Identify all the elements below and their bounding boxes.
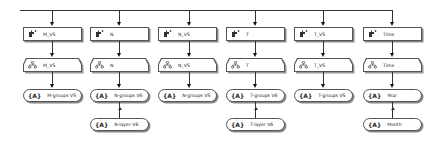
level-icon: {A} bbox=[368, 121, 381, 129]
dimension-node[interactable]: Time bbox=[363, 27, 422, 41]
dimension-label: T_VS bbox=[314, 32, 325, 37]
connector-line bbox=[255, 102, 256, 118]
arrow-down-icon bbox=[253, 22, 257, 26]
hierarchy-node[interactable]: Time bbox=[363, 58, 422, 72]
hierarchy-node[interactable]: M_VS bbox=[23, 58, 82, 72]
level-node[interactable]: {A} N-layer V6 bbox=[90, 118, 149, 131]
dimension-node[interactable]: T bbox=[226, 27, 285, 41]
level-label: Year bbox=[387, 93, 397, 98]
level-label: T-groups VS bbox=[318, 93, 345, 98]
hierarchy-label: T_VS bbox=[314, 63, 325, 68]
level-icon: {A} bbox=[163, 92, 176, 100]
dimension-node[interactable]: N_VS bbox=[158, 27, 217, 41]
level-icon: {A} bbox=[95, 92, 108, 100]
arrow-down-icon bbox=[187, 53, 191, 57]
arrow-down-icon bbox=[390, 22, 394, 26]
arrow-down-icon bbox=[187, 22, 191, 26]
hierarchy-label: M_VS bbox=[43, 63, 55, 68]
connector-line bbox=[392, 102, 393, 118]
level-label: T-groups V6 bbox=[250, 93, 277, 98]
dimension-icon bbox=[367, 30, 377, 38]
arrow-down-icon bbox=[390, 53, 394, 57]
hierarchy-icon bbox=[162, 61, 172, 69]
dimension-label: M_VS bbox=[43, 32, 55, 37]
arrow-down-icon bbox=[50, 84, 54, 88]
level-node[interactable]: {A} N-groups V6 bbox=[90, 89, 149, 102]
dimension-label: T bbox=[246, 32, 249, 37]
connector-line bbox=[119, 102, 120, 118]
hierarchy-node[interactable]: N bbox=[90, 58, 149, 72]
level-label: N-groups VS bbox=[182, 93, 210, 98]
level-node[interactable]: {A} Month bbox=[363, 118, 422, 131]
arrow-down-icon bbox=[117, 84, 121, 88]
hierarchy-node[interactable]: N_VS bbox=[158, 58, 217, 72]
level-node[interactable]: {A} T-groups V6 bbox=[226, 89, 285, 102]
hierarchy-label: N_VS bbox=[178, 63, 190, 68]
dimension-icon bbox=[162, 30, 172, 38]
level-icon: {A} bbox=[95, 121, 108, 129]
arrow-down-icon bbox=[253, 84, 257, 88]
dimension-icon bbox=[27, 30, 37, 38]
hierarchy-label: N bbox=[110, 63, 113, 68]
dimension-label: Time bbox=[383, 32, 394, 37]
dimension-node[interactable]: N bbox=[90, 27, 149, 41]
arrow-down-icon bbox=[187, 84, 191, 88]
level-label: N-layer V6 bbox=[114, 122, 138, 127]
hierarchy-icon bbox=[367, 61, 377, 69]
dimension-icon bbox=[298, 30, 308, 38]
arrow-up-icon bbox=[391, 107, 395, 110]
arrow-down-icon bbox=[253, 53, 257, 57]
arrow-down-icon bbox=[50, 53, 54, 57]
level-icon: {A} bbox=[231, 121, 244, 129]
arrow-down-icon bbox=[321, 84, 325, 88]
top-bus-line bbox=[20, 10, 393, 11]
level-label: N-groups V6 bbox=[114, 93, 142, 98]
level-icon: {A} bbox=[28, 92, 41, 100]
hierarchy-node[interactable]: T_VS bbox=[294, 58, 353, 72]
level-label: T-layer V6 bbox=[250, 122, 273, 127]
level-node[interactable]: {A} T-layer V6 bbox=[226, 118, 285, 131]
arrow-down-icon bbox=[50, 22, 54, 26]
dimension-node[interactable]: M_VS bbox=[23, 27, 82, 41]
arrow-down-icon bbox=[321, 22, 325, 26]
level-label: M-groups VS bbox=[47, 93, 76, 98]
arrow-up-icon bbox=[118, 107, 122, 110]
arrow-down-icon bbox=[390, 84, 394, 88]
level-icon: {A} bbox=[368, 92, 381, 100]
hierarchy-icon bbox=[298, 61, 308, 69]
level-icon: {A} bbox=[231, 92, 244, 100]
arrow-down-icon bbox=[117, 53, 121, 57]
dimension-icon bbox=[230, 30, 240, 38]
level-label: Month bbox=[387, 122, 401, 127]
arrow-up-icon bbox=[254, 107, 258, 110]
level-node[interactable]: {A} M-groups VS bbox=[23, 89, 82, 102]
dimension-node[interactable]: T_VS bbox=[294, 27, 353, 41]
arrow-down-icon bbox=[117, 22, 121, 26]
arrow-down-icon bbox=[321, 53, 325, 57]
level-node[interactable]: {A} Year bbox=[363, 89, 422, 102]
hierarchy-label: Time bbox=[383, 63, 394, 68]
dimension-label: N_VS bbox=[178, 32, 190, 37]
hierarchy-icon bbox=[94, 61, 104, 69]
level-node[interactable]: {A} N-groups VS bbox=[158, 89, 217, 102]
dimension-icon bbox=[94, 30, 104, 38]
level-node[interactable]: {A} T-groups VS bbox=[294, 89, 353, 102]
level-icon: {A} bbox=[299, 92, 312, 100]
hierarchy-node[interactable]: T bbox=[226, 58, 285, 72]
hierarchy-icon bbox=[27, 61, 37, 69]
hierarchy-icon bbox=[230, 61, 240, 69]
dimension-label: N bbox=[110, 32, 113, 37]
hierarchy-label: T bbox=[246, 63, 249, 68]
